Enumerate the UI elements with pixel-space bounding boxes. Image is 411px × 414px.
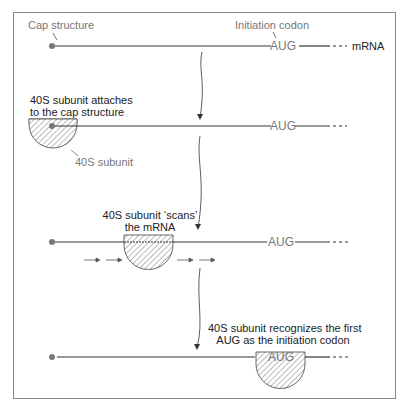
- cap-structure-dot: [49, 43, 55, 49]
- diagram-canvas: [0, 0, 411, 414]
- mrna-row-1: [49, 32, 347, 49]
- step2-caption-line1: 40S subunit ‘scans’: [100, 209, 200, 221]
- step1-caption-line2: to the cap structure: [30, 106, 124, 118]
- mrna-row-2: [29, 119, 347, 156]
- subunit-shape-2: [124, 235, 173, 270]
- step1-caption-line1: 40S subunit attaches: [30, 94, 133, 106]
- step2-caption-line2: the mRNA: [100, 221, 200, 233]
- codon-label-3: AUG: [268, 236, 294, 248]
- flow-arrow-1: [200, 52, 202, 118]
- codon-label-2: AUG: [270, 120, 296, 132]
- cap-structure-label: Cap structure: [28, 19, 94, 31]
- mrna-label: mRNA: [352, 40, 384, 52]
- step3-caption-line2: AUG as the initiation codon: [208, 334, 358, 346]
- codon-label-4: AUG: [268, 351, 294, 363]
- codon-pointer: [273, 32, 276, 38]
- flow-arrow-3: [197, 268, 200, 348]
- initiation-codon-label: Initiation codon: [235, 19, 309, 31]
- step3-caption-line1: 40S subunit recognizes the first: [208, 322, 358, 334]
- cap-pointer: [53, 33, 57, 40]
- mrna-row-4: [49, 352, 350, 389]
- mrna-row-3: [49, 235, 350, 270]
- codon-label-1: AUG: [270, 40, 296, 52]
- subunit-label: 40S subunit: [75, 156, 133, 168]
